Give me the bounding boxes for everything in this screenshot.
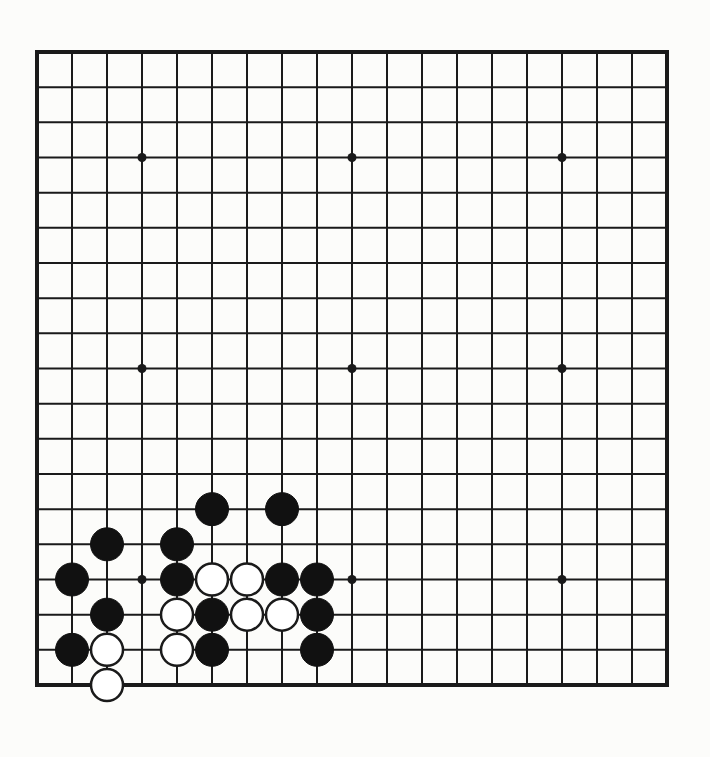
black-stone[interactable]: [56, 633, 89, 666]
white-stone[interactable]: [231, 564, 263, 596]
black-stone[interactable]: [161, 563, 194, 596]
black-stone[interactable]: [196, 633, 229, 666]
white-stone[interactable]: [196, 564, 228, 596]
star-point: [348, 153, 357, 162]
black-stone[interactable]: [56, 563, 89, 596]
black-stone[interactable]: [266, 493, 299, 526]
black-stone[interactable]: [266, 563, 299, 596]
star-point: [138, 153, 147, 162]
black-stone[interactable]: [91, 528, 124, 561]
white-stone[interactable]: [231, 599, 263, 631]
white-stone[interactable]: [161, 634, 193, 666]
black-stone[interactable]: [301, 563, 334, 596]
stones-layer[interactable]: [56, 493, 334, 701]
star-point: [138, 575, 147, 584]
star-point: [558, 575, 567, 584]
star-point: [348, 575, 357, 584]
white-stone[interactable]: [91, 669, 123, 701]
black-stone[interactable]: [161, 528, 194, 561]
star-point: [558, 364, 567, 373]
white-stone[interactable]: [91, 634, 123, 666]
black-stone[interactable]: [301, 598, 334, 631]
black-stone[interactable]: [196, 598, 229, 631]
black-stone[interactable]: [196, 493, 229, 526]
white-stone[interactable]: [266, 599, 298, 631]
black-stone[interactable]: [301, 633, 334, 666]
white-stone[interactable]: [161, 599, 193, 631]
star-point: [138, 364, 147, 373]
go-board[interactable]: [0, 0, 710, 757]
black-stone[interactable]: [91, 598, 124, 631]
star-point: [348, 364, 357, 373]
star-point: [558, 153, 567, 162]
